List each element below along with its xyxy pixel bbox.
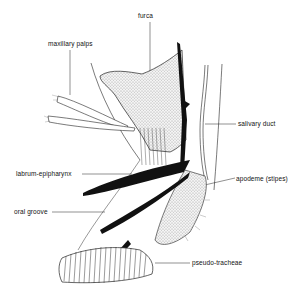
diagram-canvas: furca maxillary palps salivary duct labr… [0, 0, 300, 298]
label-salivary-duct: salivary duct [238, 120, 275, 127]
label-oral-groove: oral groove [14, 208, 48, 215]
label-apodeme-stipes: apodeme (stipes) [236, 175, 288, 182]
label-maxillary-palps: maxillary palps [48, 40, 93, 47]
pseudo-tracheae-shape [59, 248, 153, 283]
furca-shape [100, 50, 186, 152]
label-labrum-epipharynx: labrum-epipharynx [16, 170, 72, 177]
leader-lines [52, 22, 236, 263]
proboscis-illustration [0, 0, 300, 298]
label-pseudo-tracheae: pseudo-tracheae [192, 259, 242, 266]
label-furca: furca [138, 12, 153, 19]
